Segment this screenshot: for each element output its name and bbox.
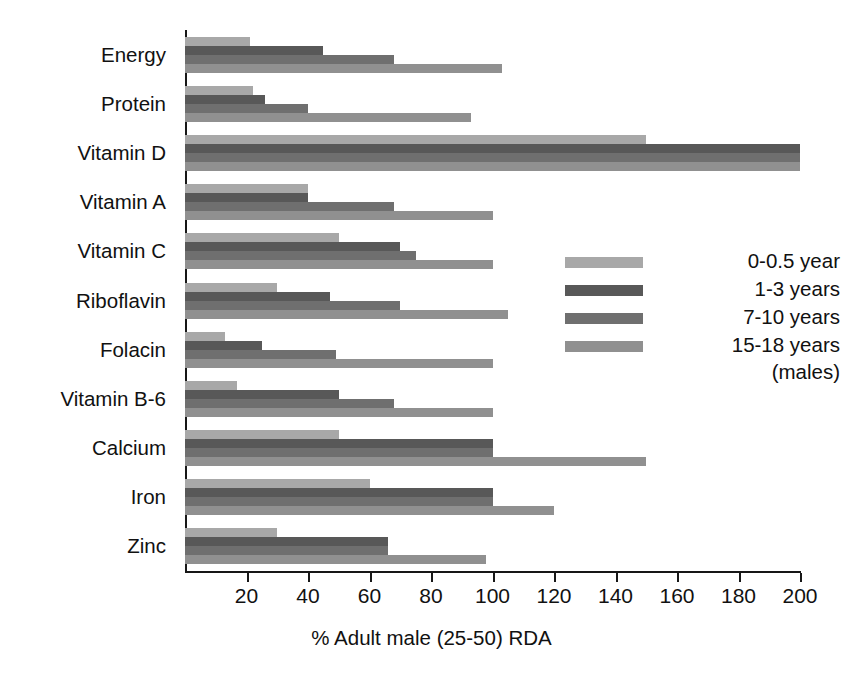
- category-label: Zinc: [127, 536, 166, 557]
- legend-label: 0-0.5 year: [660, 250, 840, 272]
- bar: [185, 113, 471, 122]
- legend-swatch: [565, 341, 643, 352]
- bar: [185, 301, 400, 310]
- x-axis-title: % Adult male (25-50) RDA: [0, 627, 863, 649]
- x-axis-tick: [554, 573, 556, 582]
- bar-group: [185, 528, 800, 564]
- bar: [185, 104, 308, 113]
- bar: [185, 162, 800, 171]
- bar: [185, 381, 237, 390]
- bar: [185, 359, 493, 368]
- category-label: Calcium: [92, 438, 166, 459]
- bar: [185, 55, 394, 64]
- legend-item[interactable]: 1-3 years: [560, 276, 850, 304]
- x-axis-tick: [431, 573, 433, 582]
- legend-sublabel: (males): [660, 361, 840, 383]
- bar: [185, 86, 253, 95]
- bar: [185, 144, 800, 153]
- bar: [185, 332, 225, 341]
- bar: [185, 242, 400, 251]
- bar: [185, 350, 336, 359]
- bar: [185, 408, 493, 417]
- x-axis-tick: [677, 573, 679, 582]
- legend-swatch: [565, 257, 643, 268]
- bar: [185, 251, 416, 260]
- bar: [185, 46, 323, 55]
- bar-group: [185, 479, 800, 515]
- bar: [185, 64, 502, 73]
- bar: [185, 488, 493, 497]
- category-label: Vitamin A: [80, 192, 166, 213]
- bar: [185, 506, 554, 515]
- x-axis-tick: [616, 573, 618, 582]
- x-axis-tick-labels: 20406080100120140160180200: [185, 585, 863, 615]
- legend-item[interactable]: 15-18 years: [560, 332, 850, 360]
- x-tick-label: 120: [536, 585, 571, 606]
- bar: [185, 497, 493, 506]
- legend-item[interactable]: 7-10 years: [560, 304, 850, 332]
- legend-label: 1-3 years: [660, 278, 840, 300]
- category-label: Vitamin B-6: [60, 389, 166, 410]
- bar: [185, 153, 800, 162]
- category-label: Folacin: [100, 340, 166, 361]
- bar: [185, 202, 394, 211]
- x-tick-label: 100: [475, 585, 510, 606]
- x-axis-tick: [739, 573, 741, 582]
- bar-chart: EnergyProteinVitamin DVitamin AVitamin C…: [0, 0, 863, 676]
- bar: [185, 341, 262, 350]
- bar: [185, 430, 339, 439]
- bar: [185, 555, 486, 564]
- x-tick-label: 160: [659, 585, 694, 606]
- bar-group: [185, 86, 800, 122]
- legend-item[interactable]: 0-0.5 year: [560, 248, 850, 276]
- bar: [185, 95, 265, 104]
- legend-label: 15-18 years: [660, 334, 840, 356]
- bar: [185, 528, 277, 537]
- category-label: Protein: [101, 94, 166, 115]
- legend-swatch: [565, 313, 643, 324]
- bar: [185, 537, 388, 546]
- category-label: Vitamin D: [78, 143, 167, 164]
- bar: [185, 211, 493, 220]
- bar-group: [185, 430, 800, 466]
- bar: [185, 439, 493, 448]
- bar-group: [185, 184, 800, 220]
- bar-group: [185, 135, 800, 171]
- legend: 0-0.5 year1-3 years7-10 years15-18 years…: [560, 248, 850, 360]
- bar: [185, 193, 308, 202]
- bar-group: [185, 381, 800, 417]
- category-axis-labels: EnergyProteinVitamin DVitamin AVitamin C…: [0, 30, 176, 570]
- x-tick-label: 80: [419, 585, 442, 606]
- bar: [185, 448, 493, 457]
- bar: [185, 260, 493, 269]
- category-label: Vitamin C: [78, 241, 167, 262]
- x-axis-tick: [493, 573, 495, 582]
- bar: [185, 546, 388, 555]
- category-label: Iron: [131, 487, 166, 508]
- x-axis-tick: [800, 573, 802, 582]
- x-axis-tick: [247, 573, 249, 582]
- bar: [185, 399, 394, 408]
- legend-label: 7-10 years: [660, 306, 840, 328]
- bar: [185, 135, 646, 144]
- x-tick-label: 200: [782, 585, 817, 606]
- bar-group: [185, 37, 800, 73]
- category-label: Energy: [101, 45, 166, 66]
- bar: [185, 233, 339, 242]
- legend-swatch: [565, 285, 643, 296]
- x-axis-tick: [370, 573, 372, 582]
- bar: [185, 37, 250, 46]
- bar: [185, 457, 646, 466]
- x-tick-label: 180: [721, 585, 756, 606]
- x-axis-tick: [308, 573, 310, 582]
- bar: [185, 283, 277, 292]
- bar: [185, 390, 339, 399]
- x-tick-label: 140: [598, 585, 633, 606]
- bar: [185, 292, 330, 301]
- x-tick-label: 40: [296, 585, 319, 606]
- bar: [185, 184, 308, 193]
- bar: [185, 310, 508, 319]
- category-label: Riboflavin: [76, 291, 166, 312]
- bar: [185, 479, 370, 488]
- x-tick-label: 20: [235, 585, 258, 606]
